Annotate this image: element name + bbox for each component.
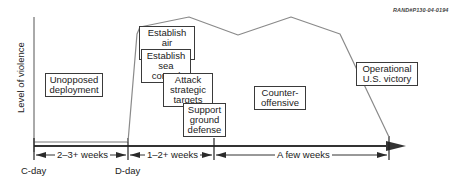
box-text-line: offensive <box>258 98 302 108</box>
box-attack-strategic-targets: Attack strategic targets <box>163 73 213 107</box>
box-text-line: defense <box>187 125 222 135</box>
marker-c-day: C-day <box>21 165 46 176</box>
box-counter-offensive: Counter- offensive <box>254 86 306 110</box>
figure-reference: RAND#P130-04-0194 <box>393 7 449 13</box>
y-axis-label: Level of violence <box>15 42 26 113</box>
box-support-ground-defense: Support ground defense <box>183 103 226 137</box>
duration-label-3: A few weeks <box>275 150 332 160</box>
duration-label-2: 1–2+ weeks <box>145 150 200 160</box>
box-text-line: Establish air <box>143 28 191 48</box>
marker-d-day: D-day <box>115 165 140 176</box>
box-operational-us-victory: Operational U.S. victory <box>356 62 418 86</box>
box-text-line: deployment <box>49 85 99 95</box>
duration-label-1: 2–3+ weeks <box>55 150 110 160</box>
box-unopposed-deployment: Unopposed deployment <box>45 73 103 97</box>
box-text-line: U.S. victory <box>360 74 414 84</box>
